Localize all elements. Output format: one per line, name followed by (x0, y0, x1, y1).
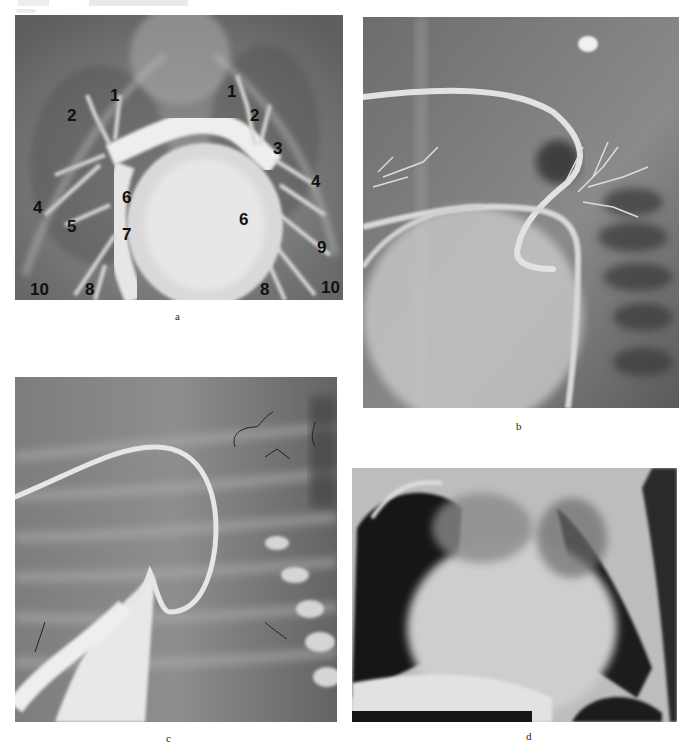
label-9: 9 (317, 238, 326, 257)
caption-d: d (526, 730, 532, 742)
caption-b: b (516, 420, 522, 432)
label-6: 6 (122, 188, 131, 207)
label-10: 10 (321, 278, 340, 297)
label-4: 4 (311, 172, 321, 191)
caption-a: a (175, 310, 180, 322)
label-7: 7 (122, 225, 131, 244)
label-2: 2 (67, 106, 76, 125)
figure-panel-b (363, 17, 679, 408)
caption-c: c (166, 732, 171, 744)
page-mark (16, 9, 36, 13)
figure-panel-a: 1 2 1 2 3 4 4 6 5 6 7 9 10 8 8 10 (15, 15, 343, 300)
chest-xray-image-d (352, 468, 677, 722)
label-8: 8 (260, 280, 269, 299)
label-5: 5 (67, 217, 76, 236)
label-10: 10 (30, 280, 49, 299)
label-2: 2 (250, 106, 259, 125)
figure-panel-c (15, 377, 337, 722)
angiogram-image-a: 1 2 1 2 3 4 4 6 5 6 7 9 10 8 8 10 (15, 15, 343, 300)
label-8: 8 (85, 280, 94, 299)
label-3: 3 (273, 139, 282, 158)
label-6: 6 (239, 210, 248, 229)
angiogram-image-b (363, 17, 679, 408)
figure-panel-d (352, 468, 677, 722)
label-1: 1 (110, 86, 119, 105)
label-1: 1 (227, 82, 236, 101)
running-header (18, 0, 188, 6)
label-4: 4 (33, 198, 43, 217)
angiogram-image-c (15, 377, 337, 722)
